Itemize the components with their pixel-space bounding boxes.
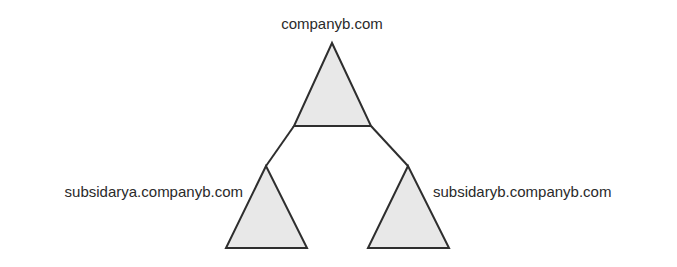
subsidarya-domain-label: subsidarya.companyb.com [65,183,243,200]
subsidarya-triangle-icon [226,166,307,248]
subsidaryb-domain-label: subsidaryb.companyb.com [433,183,611,200]
child-domain-node-right: subsidaryb.companyb.com [368,166,611,248]
root-domain-triangle-icon [294,43,371,126]
domain-tree-diagram: companyb.com subsidarya.companyb.com sub… [0,0,677,267]
edge-root-to-subsidaryb [371,126,408,166]
edge-root-to-subsidarya [266,126,294,166]
root-domain-node: companyb.com [281,15,383,126]
subsidaryb-triangle-icon [368,166,449,248]
child-domain-node-left: subsidarya.companyb.com [65,166,307,248]
root-domain-label: companyb.com [281,15,383,32]
